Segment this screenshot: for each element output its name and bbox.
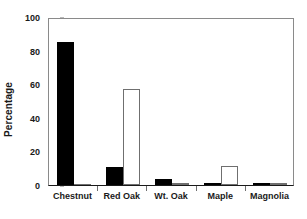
x-axis-category-label: Magnolia <box>250 191 289 201</box>
bar <box>204 183 221 185</box>
bar-group <box>197 19 246 185</box>
bar <box>253 183 270 185</box>
y-axis-tick-label: 60 <box>30 80 40 90</box>
bar <box>155 179 172 185</box>
y-axis-tick-label: 40 <box>30 114 40 124</box>
bar <box>57 42 74 185</box>
x-axis-category-label: Maple <box>207 191 233 201</box>
bar-chart: Percentage 020406080100 ChestnutRed OakW… <box>0 0 307 219</box>
x-axis-category-label: Red Oak <box>104 191 141 201</box>
bar-group-inner <box>197 19 246 185</box>
y-axis-title: Percentage <box>0 0 16 219</box>
y-axis-tick-label: 20 <box>30 147 40 157</box>
x-axis-category-label: Chestnut <box>53 191 92 201</box>
bar-group <box>147 19 196 185</box>
bar-group-inner <box>98 19 147 185</box>
y-axis-tick-label: 100 <box>25 13 40 23</box>
y-axis-tick-label: 80 <box>30 47 40 57</box>
bar <box>221 166 238 185</box>
bar-group-inner <box>49 19 98 185</box>
x-axis-tick-labels: ChestnutRed OakWt. OakMapleMagnolia <box>48 191 294 207</box>
bars-layer <box>49 19 293 185</box>
bar <box>270 183 287 185</box>
bar-group <box>49 19 98 185</box>
bar <box>106 167 123 185</box>
bar <box>123 89 140 185</box>
bar-group-inner <box>147 19 196 185</box>
x-axis-category-label: Wt. Oak <box>154 191 188 201</box>
bar-group-inner <box>246 19 295 185</box>
bar-group <box>246 19 295 185</box>
bar-group <box>98 19 147 185</box>
y-axis-tick-labels: 020406080100 <box>16 18 44 186</box>
bar <box>172 183 189 185</box>
bar <box>74 184 91 185</box>
y-axis-tick-label: 0 <box>35 181 40 191</box>
plot-area <box>48 18 294 186</box>
